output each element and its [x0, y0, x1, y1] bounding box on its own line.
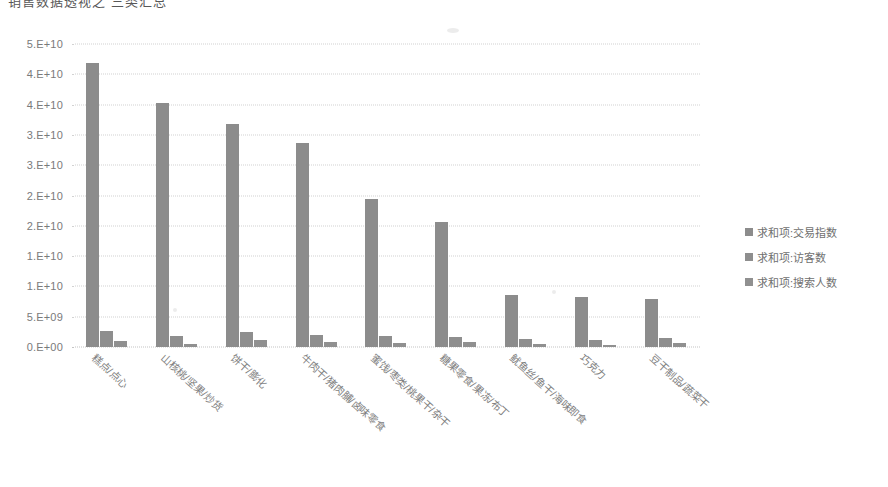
bar[interactable] — [296, 143, 309, 347]
bar[interactable] — [603, 345, 616, 347]
x-axis-label: 巧克力 — [577, 350, 610, 382]
bar[interactable] — [254, 340, 267, 347]
bar[interactable] — [170, 336, 183, 347]
y-axis-tick-label: 2.E+10 — [27, 190, 63, 202]
bar[interactable] — [240, 332, 253, 347]
bar[interactable] — [393, 343, 406, 347]
y-axis-tick-label: 5.E+09 — [27, 311, 63, 323]
y-axis-tick-label: 0.E+00 — [27, 341, 63, 353]
x-axis-label: 糕点/点心 — [88, 350, 131, 391]
bar[interactable] — [575, 297, 588, 347]
bar[interactable] — [86, 63, 99, 347]
y-axis-tick-label: 3.E+10 — [27, 129, 63, 141]
y-axis-tick-label: 2.E+10 — [27, 220, 63, 232]
bar-groups — [72, 44, 700, 347]
bar[interactable] — [519, 339, 532, 347]
bar[interactable] — [659, 338, 672, 347]
x-axis-label: 豆干制品/蔬菜干 — [647, 350, 713, 412]
x-axis-label: 饼干/膨化 — [228, 350, 271, 391]
y-axis-tick-label: 4.E+10 — [27, 68, 63, 80]
bar[interactable] — [449, 337, 462, 347]
bar[interactable] — [533, 344, 546, 347]
bar-group — [491, 44, 561, 347]
bar-group — [72, 44, 142, 347]
bar[interactable] — [645, 299, 658, 347]
plot-area: 5.E+104.E+104.E+103.E+103.E+102.E+102.E+… — [72, 44, 700, 347]
y-axis-tick-label: 1.E+10 — [27, 280, 63, 292]
bar[interactable] — [324, 342, 337, 347]
chart-title: 销售数据透视之 三类汇总 — [8, 0, 167, 9]
y-axis-tick-label: 1.E+10 — [27, 250, 63, 262]
bar[interactable] — [673, 343, 686, 347]
bar-group — [281, 44, 351, 347]
bar[interactable] — [114, 341, 127, 347]
scan-artifact — [447, 28, 459, 33]
legend-item[interactable]: 求和项:访客数 — [745, 244, 885, 269]
legend-item[interactable]: 求和项:交易指数 — [745, 219, 885, 244]
bar-group — [560, 44, 630, 347]
bar-group — [421, 44, 491, 347]
legend-swatch-icon — [745, 228, 753, 236]
legend-swatch-icon — [745, 253, 753, 261]
y-axis-tick-label: 4.E+10 — [27, 99, 63, 111]
bar[interactable] — [310, 335, 323, 347]
legend-item[interactable]: 求和项:搜索人数 — [745, 269, 885, 294]
bar[interactable] — [100, 331, 113, 347]
bar[interactable] — [505, 295, 518, 347]
bar[interactable] — [463, 342, 476, 347]
legend-item-label: 求和项:访客数 — [757, 249, 826, 265]
chart-legend: 求和项:交易指数求和项:访客数求和项:搜索人数 — [745, 219, 885, 294]
x-axis-label: 山核桃/坚果/炒货 — [158, 350, 226, 414]
legend-swatch-icon — [745, 278, 753, 286]
bar[interactable] — [365, 199, 378, 347]
bar[interactable] — [435, 222, 448, 347]
bar-group — [351, 44, 421, 347]
bar[interactable] — [379, 336, 392, 347]
legend-item-label: 求和项:搜索人数 — [757, 274, 837, 290]
bar-group — [142, 44, 212, 347]
x-axis-labels: 糕点/点心山核桃/坚果/炒货饼干/膨化牛肉干/猪肉脯/卤味零食蜜饯/枣类/桃果干… — [72, 350, 700, 480]
bar[interactable] — [589, 340, 602, 347]
bar-chart: 销售数据透视之 三类汇总 5.E+104.E+104.E+103.E+103.E… — [0, 0, 888, 487]
bar-group — [212, 44, 282, 347]
y-axis-tick-label: 5.E+10 — [27, 38, 63, 50]
bar[interactable] — [226, 124, 239, 347]
bar[interactable] — [184, 344, 197, 347]
y-axis-tick-label: 3.E+10 — [27, 159, 63, 171]
x-axis-label: 糖果零食/果冻/布丁 — [437, 350, 513, 421]
legend-item-label: 求和项:交易指数 — [757, 224, 837, 240]
bar[interactable] — [156, 103, 169, 347]
bar-group — [630, 44, 700, 347]
